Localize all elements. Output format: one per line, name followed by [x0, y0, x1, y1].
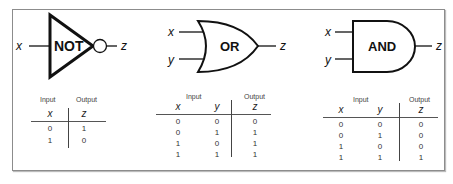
or-cell: 1 [211, 150, 223, 159]
and-truth-table: Input Output x y z 0 0 0 0 1 0 1 0 0 1 1… [323, 96, 443, 172]
or-input-header: Input [186, 93, 202, 100]
and-gate: AND x y z [324, 21, 442, 72]
or-cell: 1 [172, 139, 184, 148]
and-col-y: y [374, 104, 386, 115]
not-gate: NOT x z [15, 15, 127, 77]
or-output-z: z [279, 39, 286, 53]
and-col-x: x [335, 104, 347, 115]
or-cell: 1 [249, 150, 261, 159]
and-input-header: Input [353, 96, 369, 103]
and-cell: 1 [335, 153, 347, 162]
and-cell: 0 [415, 120, 427, 129]
and-col-z: z [415, 104, 427, 115]
or-cell: 1 [211, 128, 223, 137]
and-header-rule [323, 117, 438, 118]
and-label: AND [368, 39, 396, 54]
or-col-y: y [211, 101, 223, 112]
not-cell: 0 [44, 124, 56, 133]
and-cell: 0 [415, 142, 427, 151]
or-output-header: Output [244, 93, 265, 100]
or-col-z: z [249, 101, 261, 112]
and-cell: 0 [415, 131, 427, 140]
not-input-x: x [15, 39, 23, 53]
or-cell: 0 [172, 128, 184, 137]
not-col-x: x [44, 108, 56, 119]
and-output-header: Output [409, 96, 430, 103]
or-col-x: x [172, 101, 184, 112]
not-input-header: Input [40, 96, 56, 103]
or-cell: 0 [211, 139, 223, 148]
or-cell: 1 [249, 128, 261, 137]
or-gate: OR x y z [167, 21, 286, 72]
and-input-x: x [324, 25, 332, 39]
not-output-z: z [120, 39, 127, 53]
and-cell: 1 [415, 153, 427, 162]
and-output-z: z [435, 39, 442, 53]
or-column-divider [231, 100, 232, 157]
and-cell: 0 [335, 131, 347, 140]
or-cell: 0 [211, 117, 223, 126]
not-cell: 0 [78, 136, 90, 145]
or-cell: 0 [249, 117, 261, 126]
not-cell: 1 [78, 124, 90, 133]
or-input-x: x [167, 25, 175, 39]
and-cell: 0 [374, 120, 386, 129]
or-cell: 0 [172, 117, 184, 126]
or-cell: 1 [249, 139, 261, 148]
and-cell: 1 [335, 142, 347, 151]
or-header-rule [156, 114, 271, 115]
and-cell: 0 [374, 142, 386, 151]
not-col-z: z [78, 108, 90, 119]
not-bubble [94, 40, 107, 53]
not-output-header: Output [76, 96, 97, 103]
and-cell: 1 [374, 131, 386, 140]
and-cell: 0 [335, 120, 347, 129]
or-label: OR [220, 39, 240, 54]
and-cell: 1 [374, 153, 386, 162]
or-cell: 1 [172, 150, 184, 159]
or-truth-table: Input Output x y z 0 0 0 0 1 1 1 0 1 1 1… [156, 93, 286, 173]
not-label: NOT [54, 38, 84, 54]
not-column-divider [68, 108, 69, 148]
not-cell: 1 [44, 136, 56, 145]
and-column-divider [399, 103, 400, 161]
not-truth-table: Input Output x z 0 1 1 0 [30, 96, 110, 156]
and-input-y: y [324, 53, 332, 67]
or-input-y: y [167, 53, 175, 67]
